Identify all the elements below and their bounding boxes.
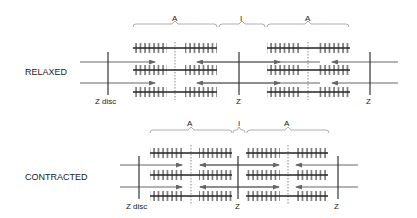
relaxed-label: RELAXED	[25, 67, 68, 77]
contracted-label: CONTRACTED	[25, 172, 88, 182]
thick-filaments	[150, 148, 328, 201]
relaxed-panel: RELAXED A I A	[25, 14, 398, 106]
contracted-panel: CONTRACTED A I A	[25, 119, 358, 211]
sarcomere-diagram: RELAXED A I A	[0, 0, 417, 218]
a-band-label: A	[284, 119, 290, 128]
z-label: Z	[334, 202, 339, 211]
i-band-label: I	[240, 14, 242, 23]
a-band-label: A	[305, 14, 311, 23]
z-disc-label: Z disc	[126, 202, 147, 211]
z-label: Z	[235, 202, 240, 211]
z-label: Z	[366, 97, 371, 106]
a-band-label: A	[172, 14, 178, 23]
thick-filaments	[133, 43, 350, 97]
a-band-label: A	[187, 119, 193, 128]
i-band-label: I	[238, 119, 240, 128]
z-label: Z	[236, 97, 241, 106]
z-disc-label: Z disc	[95, 97, 116, 106]
